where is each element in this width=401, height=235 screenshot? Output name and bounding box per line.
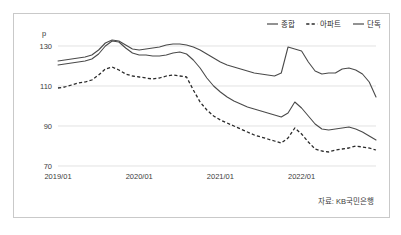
gridlines bbox=[58, 46, 376, 166]
y-tick-label: 110 bbox=[40, 82, 52, 91]
x-axis-tick-labels: 2019/012020/012021/012022/01 bbox=[44, 172, 315, 181]
x-tick-label: 2020/01 bbox=[126, 172, 153, 181]
legend-label-종합: 종합 bbox=[281, 20, 295, 29]
x-tick-label: 2022/01 bbox=[288, 172, 315, 181]
legend-label-아파트: 아파트 bbox=[320, 19, 341, 29]
series-line-아파트 bbox=[58, 67, 376, 152]
y-tick-label: 130 bbox=[39, 42, 52, 51]
x-tick-label: 2021/01 bbox=[207, 172, 234, 181]
series-line-종합 bbox=[58, 41, 376, 140]
y-tick-label: 90 bbox=[44, 122, 52, 131]
y-axis-unit-label: p bbox=[42, 29, 46, 38]
chart-legend: 종합아파트단독 bbox=[267, 19, 381, 29]
x-tick-label: 2019/01 bbox=[44, 172, 71, 181]
y-tick-label: 70 bbox=[44, 162, 52, 171]
y-axis-tick-labels: 7090110130 bbox=[39, 42, 52, 171]
source-note: 자료: KB국민은행 bbox=[318, 196, 374, 206]
chart-figure: 7090110130 2019/012020/012021/012022/01 … bbox=[13, 13, 390, 218]
legend-label-단독: 단독 bbox=[367, 19, 381, 29]
line-chart: 7090110130 2019/012020/012021/012022/01 … bbox=[14, 14, 389, 217]
data-series-group bbox=[58, 40, 376, 152]
